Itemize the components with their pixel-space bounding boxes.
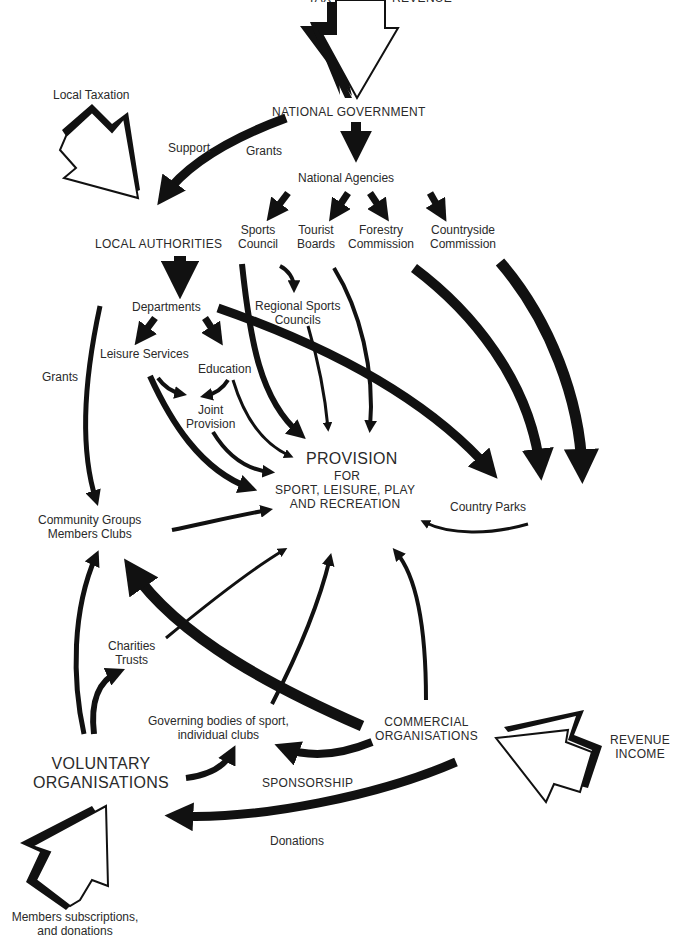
national-government-node: NATIONAL GOVERNMENT: [272, 105, 426, 119]
sponsorship-arrow: [284, 742, 372, 754]
tourist-boards-node: Tourist Boards: [297, 223, 335, 252]
agencies-to-tourist-boards-arrow: [334, 193, 348, 214]
leisure-to-provision-arrow: [150, 376, 250, 488]
sc-to-regional-arrow: [280, 266, 294, 288]
donations-label: Donations: [270, 834, 324, 848]
voluntary-to-governing-arrow: [186, 752, 232, 778]
departments-to-leisure-arrow: [140, 318, 155, 338]
commercial-to-community-arrow: [132, 570, 362, 726]
countryside-commission-node: Countryside Commission: [430, 223, 496, 252]
forestry-commission-node: Forestry Commission: [348, 223, 414, 252]
revenue-income-label: REVENUE INCOME: [610, 733, 670, 762]
tourist-to-provision-arrow: [334, 268, 371, 428]
tax-partial-label: TAX: [308, 0, 331, 5]
commercial-organisations-node: COMMERCIAL ORGANISATIONS: [375, 715, 478, 744]
countryside-to-country-parks-arrow: [500, 262, 582, 470]
country-parks-to-provision-arrow: [424, 522, 528, 532]
joint-to-provision-arrow: [213, 432, 270, 472]
members-subscriptions-label: Members subscriptions, and donations: [0, 910, 150, 939]
charities-trusts-node: Charities Trusts: [108, 639, 155, 668]
grants-left-label: Grants: [42, 370, 78, 384]
revenue-income-block-arrow: [496, 710, 602, 802]
departments-node: Departments: [132, 300, 201, 314]
voluntary-organisations-node: VOLUNTARY ORGANISATIONS: [33, 754, 169, 792]
regional-sports-councils-node: Regional Sports Councils: [255, 299, 340, 328]
local-taxation-label: Local Taxation: [53, 88, 130, 102]
grants-top-label: Grants: [246, 144, 282, 158]
leisure-to-joint-arrow: [158, 378, 182, 394]
community-groups-node: Community Groups Members Clubs: [38, 513, 141, 542]
local-authorities-node: LOCAL AUTHORITIES: [95, 237, 222, 251]
la-grants-to-community-arrow: [86, 306, 100, 500]
provision-for: FOR: [334, 469, 360, 483]
support-label: Support: [168, 141, 210, 155]
country-parks-node: Country Parks: [450, 500, 526, 514]
community-to-provision-arrow: [172, 510, 268, 530]
provision-subtitle: SPORT, LEISURE, PLAY AND RECREATION: [275, 483, 415, 512]
sports-council-node: Sports Council: [238, 223, 278, 252]
revenue-partial-label: REVENUE: [392, 0, 452, 5]
local-taxation-block-arrow: [60, 104, 140, 198]
departments-to-education-arrow: [205, 318, 218, 338]
governing-bodies-node: Governing bodies of sport, individual cl…: [148, 714, 289, 743]
education-to-joint-arrow: [205, 380, 228, 396]
sc-to-provision-arrow: [242, 264, 300, 434]
departments-to-country-parks-arrow: [218, 308, 490, 470]
commercial-to-provision-arrow: [396, 552, 426, 700]
leisure-services-node: Leisure Services: [100, 347, 189, 361]
tax-revenue-block-arrow: [300, 0, 398, 98]
provision-title: PROVISION: [306, 449, 398, 468]
agencies-to-forestry-arrow: [370, 193, 384, 214]
sponsorship-label: SPONSORSHIP: [262, 776, 353, 790]
agencies-to-countryside-arrow: [430, 193, 442, 214]
voluntary-to-charities-arrow: [93, 672, 118, 734]
agencies-to-sports-council-arrow: [272, 193, 288, 214]
education-node: Education: [198, 362, 251, 376]
members-subscriptions-block-arrow: [20, 806, 108, 910]
joint-provision-node: Joint Provision: [186, 403, 235, 432]
national-agencies-node: National Agencies: [298, 171, 394, 185]
